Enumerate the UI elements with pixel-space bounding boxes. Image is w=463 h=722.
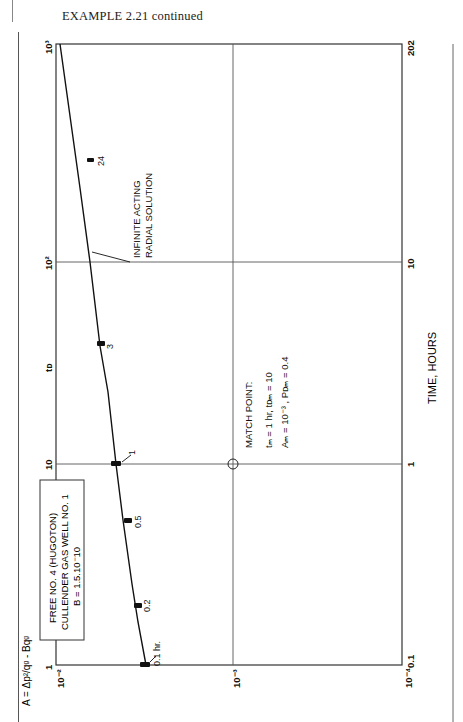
time-axis-ticks: 0.1 1 10 202: [405, 40, 416, 668]
svg-text:CULLENDER GAS WELL NO. 1: CULLENDER GAS WELL NO. 1: [59, 494, 70, 630]
well-legend-box: FREE NO. 4 (HUGOTON) CULLENDER GAS WELL …: [40, 480, 84, 640]
svg-text:10⁻²: 10⁻²: [55, 669, 66, 688]
svg-text:INFINITE ACTING: INFINITE ACTING: [131, 180, 142, 258]
svg-text:10⁻³: 10⁻³: [231, 669, 242, 688]
svg-text:10: 10: [405, 258, 416, 269]
point-label-3: 3: [105, 344, 115, 349]
point-label-02: 0.2: [142, 599, 152, 612]
point-label-05: 0.5: [133, 515, 143, 528]
chart: 0.1 hr. 0.2 0.5 1 3 24 INFINITE ACTING R…: [0, 0, 463, 722]
svg-text:B = 1.5.10⁻10: B = 1.5.10⁻10: [71, 547, 82, 606]
svg-text:10: 10: [43, 459, 54, 470]
match-point-text: MATCH POINT: tₘ = 1 hr, tᴅₘ = 10 Aₘ = 10…: [243, 357, 290, 448]
gridlines: [56, 44, 402, 665]
point-label-24: 24: [96, 156, 106, 166]
point-label-01: 0.1 hr.: [152, 641, 162, 666]
svg-text:0.1: 0.1: [405, 654, 416, 668]
y-axis-label: A = Δp²/qᵍ - Bqᵍ: [21, 636, 32, 706]
point-label-1: 1: [127, 450, 137, 455]
svg-text:FREE NO. 4 (HUGOTON): FREE NO. 4 (HUGOTON): [47, 513, 58, 623]
svg-text:Aₘ = 10⁻³ , Pᴅₘ = 0.4: Aₘ = 10⁻³ , Pᴅₘ = 0.4: [279, 357, 290, 448]
plot-frame: [56, 44, 402, 665]
svg-text:RADIAL SOLUTION: RADIAL SOLUTION: [143, 173, 154, 258]
svg-text:tᴅ: tᴅ: [43, 363, 54, 372]
svg-text:tₘ = 1 hr, tᴅₘ = 10: tₘ = 1 hr, tᴅₘ = 10: [263, 372, 274, 448]
svg-text:10²: 10²: [43, 256, 54, 270]
a-axis-ticks: 10⁻² 10⁻³ 10⁻⁴: [55, 667, 414, 688]
svg-text:MATCH POINT:: MATCH POINT:: [243, 382, 254, 448]
x-axis-label: TIME, HOURS: [426, 332, 438, 404]
svg-text:10³: 10³: [43, 40, 54, 54]
curve-label: INFINITE ACTING RADIAL SOLUTION: [131, 173, 154, 258]
svg-text:202: 202: [405, 40, 416, 56]
svg-text:10⁻⁴: 10⁻⁴: [403, 667, 414, 688]
svg-text:1: 1: [43, 664, 54, 670]
svg-text:1: 1: [405, 461, 416, 467]
